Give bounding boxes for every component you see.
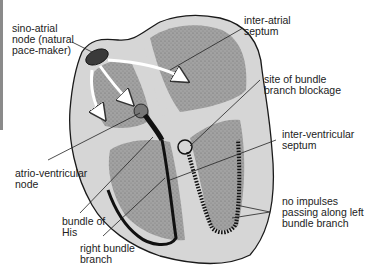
label-atrio-ventricular-node: atrio-ventricular node bbox=[15, 168, 87, 190]
label-sino-atrial-node: sino-atrial node (natural pace-maker) bbox=[12, 23, 74, 56]
label-right-bundle-branch: right bundle branch bbox=[80, 243, 135, 265]
label-no-impulses: no impulses passing along left bundle br… bbox=[282, 196, 364, 229]
label-bundle-of-his: bundle of His bbox=[62, 216, 105, 238]
label-blockage-site: site of bundle branch blockage bbox=[264, 74, 341, 96]
label-inter-ventricular-septum: inter-ventricular septum bbox=[282, 129, 354, 151]
label-inter-atrial-septum: inter-atrial septum bbox=[244, 15, 291, 37]
